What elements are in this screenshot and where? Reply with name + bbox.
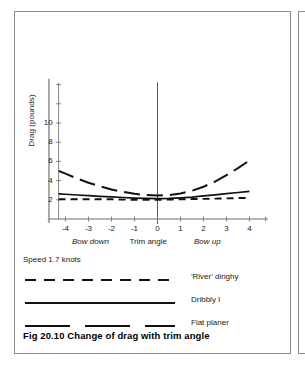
drag-vs-trim-angle-chart xyxy=(15,12,292,255)
chart-plot-area: Drag (pounds) 246810 -4-3-2-101234 Bow d… xyxy=(15,12,292,255)
figure-page: Drag (pounds) 246810 -4-3-2-101234 Bow d… xyxy=(0,0,305,368)
x-tick-label: 0 xyxy=(151,224,165,233)
x-tick-label: -3 xyxy=(82,224,96,233)
y-tick-label: 8 xyxy=(39,137,53,146)
figure-container: Drag (pounds) 246810 -4-3-2-101234 Bow d… xyxy=(14,11,291,354)
legend-item-label: 'River' dinghy xyxy=(191,272,239,281)
legend-item: 'River' dinghy xyxy=(23,270,285,293)
legend-swatch-river-dinghy xyxy=(25,279,175,281)
series-line-flat-planer xyxy=(59,160,250,195)
x-tick-label: 2 xyxy=(197,224,211,233)
x-tick-label: 3 xyxy=(220,224,234,233)
y-tick-label: 4 xyxy=(39,176,53,185)
x-tick-label: 4 xyxy=(243,224,257,233)
figure-caption: Fig 20.10 Change of drag with trim angle xyxy=(23,330,285,341)
axis-zone-label-bow-up: Bow up xyxy=(15,237,292,246)
x-tick-label: 1 xyxy=(174,224,188,233)
adjacent-column-box xyxy=(298,11,305,354)
y-tick-label: 6 xyxy=(39,156,53,165)
legend-item-label: Dribbly I xyxy=(191,295,220,304)
legend-item-label: Flat planer xyxy=(191,318,229,327)
y-tick-label: 2 xyxy=(39,195,53,204)
chart-legend: 'River' dinghyDribbly IFlat planer xyxy=(23,270,285,339)
legend-swatch-flat-planer xyxy=(25,325,175,327)
y-tick-label: 10 xyxy=(39,118,53,127)
x-tick-label: -2 xyxy=(105,224,119,233)
legend-swatch-dribbly-i xyxy=(25,302,175,304)
speed-note: Speed 1.7 knots xyxy=(23,255,81,264)
x-tick-label: -4 xyxy=(59,224,73,233)
x-tick-label: -1 xyxy=(128,224,142,233)
legend-item: Dribbly I xyxy=(23,293,285,316)
